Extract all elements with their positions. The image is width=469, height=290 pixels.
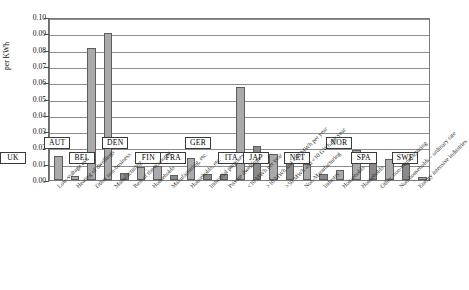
y-tick-mark	[44, 34, 49, 35]
y-tick-mark	[44, 181, 49, 182]
y-tick-mark	[44, 83, 49, 84]
gridline	[50, 19, 429, 20]
y-tick-mark	[44, 100, 49, 101]
country-label-uk: UK	[0, 152, 26, 164]
y-tick-label: 0.05	[2, 96, 46, 104]
bar	[54, 156, 63, 180]
country-label-den: DEN	[102, 137, 128, 149]
y-tick-mark	[44, 116, 49, 117]
country-label-aut: AUT	[44, 137, 70, 149]
y-tick-mark	[44, 18, 49, 19]
x-axis-tick-labels: Low-voltage useHeating of dwellingsOther…	[0, 181, 454, 290]
y-tick-label: 0.03	[2, 128, 46, 136]
y-tick-label: 0.10	[2, 14, 46, 22]
y-tick-mark	[44, 51, 49, 52]
country-label-spa: SPA	[351, 152, 377, 164]
y-tick-label: 0.06	[2, 79, 46, 87]
country-label-ger: GER	[185, 137, 211, 149]
y-tick-mark	[44, 165, 49, 166]
y-tick-mark	[44, 67, 49, 68]
y-tick-mark	[44, 148, 49, 149]
y-tick-label: 0.04	[2, 112, 46, 120]
y-axis-tick-labels: 0.000.010.020.030.040.050.060.070.080.09…	[0, 0, 46, 200]
bar	[236, 87, 245, 180]
y-tick-mark	[44, 132, 49, 133]
y-tick-label: 0.08	[2, 47, 46, 55]
y-tick-label: 0.09	[2, 30, 46, 38]
y-tick-label: 0.07	[2, 63, 46, 71]
